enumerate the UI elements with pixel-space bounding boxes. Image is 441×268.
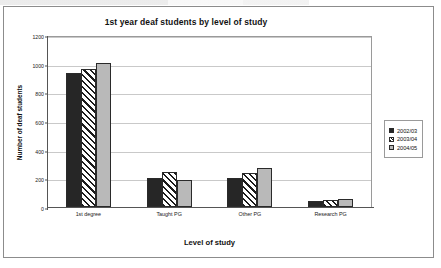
bar <box>308 201 323 207</box>
y-tick-label: 600 <box>35 120 44 126</box>
plot-area: 020040060080010001200 1st degreeTaught P… <box>47 36 372 208</box>
x-tick-label: Taught PG <box>129 211 210 217</box>
bar <box>96 63 111 207</box>
legend-item-label: 2002/03 <box>397 128 417 134</box>
bar-group: Other PG <box>210 37 291 207</box>
legend-item-label: 2003/04 <box>397 136 417 142</box>
bar <box>81 69 96 207</box>
bar <box>66 73 81 207</box>
chart-title: 1st year deaf students by level of study <box>0 17 372 27</box>
y-axis-title: Number of deaf students <box>14 36 26 208</box>
y-tick-mark <box>45 209 48 210</box>
bar <box>162 172 177 207</box>
y-tick-label: 1000 <box>32 63 44 69</box>
bar <box>147 178 162 207</box>
bar-group: 1st degree <box>48 37 129 207</box>
x-axis-title: Level of study <box>47 238 372 247</box>
x-axis-line <box>47 207 374 208</box>
legend-swatch-icon <box>389 137 394 142</box>
x-tick-label: 1st degree <box>48 211 129 217</box>
legend-item: 2003/04 <box>389 136 417 142</box>
bar <box>323 200 338 207</box>
legend-swatch-icon <box>389 145 394 150</box>
bar <box>257 168 272 207</box>
legend-item: 2002/03 <box>389 128 417 134</box>
bar <box>177 180 192 207</box>
legend-item-label: 2004/05 <box>397 145 417 151</box>
scan-artifact-strip <box>0 0 441 5</box>
x-tick-label: Research PG <box>290 211 371 217</box>
y-tick-label: 200 <box>35 177 44 183</box>
bar <box>242 173 257 207</box>
bar-group: Taught PG <box>129 37 210 207</box>
y-tick-label: 800 <box>35 91 44 97</box>
bar <box>338 199 353 207</box>
y-tick-label: 1200 <box>32 34 44 40</box>
bar-groups: 1st degreeTaught PGOther PGResearch PG <box>48 37 371 207</box>
chart-legend: 2002/032003/042004/05 <box>384 120 423 158</box>
legend-swatch-icon <box>389 128 394 133</box>
bar <box>227 178 242 207</box>
bar-group: Research PG <box>290 37 371 207</box>
y-tick-label: 400 <box>35 149 44 155</box>
chart-screenshot: 1st year deaf students by level of study… <box>0 0 441 268</box>
y-axis-title-text: Number of deaf students <box>17 84 24 159</box>
legend-item: 2004/05 <box>389 145 417 151</box>
x-tick-label: Other PG <box>210 211 291 217</box>
y-tick-label: 0 <box>41 206 44 212</box>
